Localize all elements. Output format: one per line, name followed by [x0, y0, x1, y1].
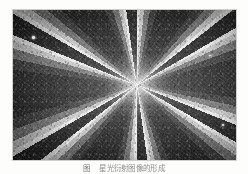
bright-speck	[187, 39, 189, 41]
bright-speck-group	[13, 10, 236, 160]
figure-caption-text: 星光衍射图像的形成	[99, 164, 165, 173]
bright-speck	[147, 145, 148, 146]
figure-caption: 图 星光衍射图像的形成	[0, 164, 248, 173]
bright-speck	[67, 142, 69, 144]
bright-speck	[222, 124, 224, 126]
bright-speck	[32, 36, 35, 39]
bright-speck	[209, 55, 210, 56]
figure-image-plate	[13, 10, 236, 160]
document-page: 图 星光衍射图像的形成	[0, 0, 248, 174]
figure-caption-number: 图	[83, 164, 90, 173]
